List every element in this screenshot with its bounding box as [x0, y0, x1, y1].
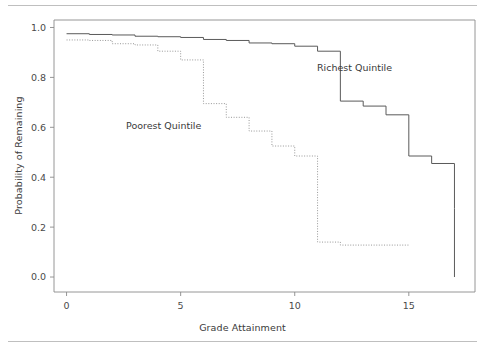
svg-text:0: 0 — [64, 300, 70, 311]
svg-text:0.8: 0.8 — [31, 72, 46, 83]
y-axis-title: Probability of Remaining — [13, 76, 24, 236]
series-label-richest: Richest Quintile — [317, 62, 392, 73]
svg-text:10: 10 — [289, 300, 301, 311]
svg-text:0.6: 0.6 — [31, 122, 46, 133]
svg-text:1.0: 1.0 — [31, 22, 46, 33]
svg-text:15: 15 — [403, 300, 415, 311]
x-axis-title: Grade Attainment — [0, 322, 485, 333]
series-label-poorest: Poorest Quintile — [126, 120, 201, 131]
step-chart-plot: 0.00.20.40.60.81.0051015 — [0, 0, 485, 354]
figure-container: 0.00.20.40.60.81.0051015 Grade Attainmen… — [0, 0, 485, 354]
svg-text:0.4: 0.4 — [31, 172, 46, 183]
svg-text:5: 5 — [178, 300, 184, 311]
svg-text:0.0: 0.0 — [31, 271, 46, 282]
data-series — [67, 34, 455, 277]
svg-text:0.2: 0.2 — [31, 222, 46, 233]
